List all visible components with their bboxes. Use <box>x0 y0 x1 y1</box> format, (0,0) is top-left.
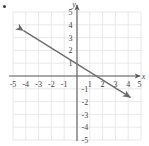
x-axis-label: x <box>141 72 146 81</box>
y-tick-label: -2 <box>82 98 89 107</box>
y-tick-label: -3 <box>82 111 89 120</box>
x-tick-labels: -5 -4 -3 -2 -1 1 2 3 4 5 <box>10 80 142 89</box>
x-tick-label: 4 <box>126 80 130 89</box>
y-tick-label: -4 <box>82 123 89 132</box>
axes <box>9 5 140 141</box>
x-tick-label: -2 <box>48 80 55 89</box>
y-tick-label: -5 <box>82 136 89 145</box>
y-tick-label: -1 <box>82 85 89 94</box>
x-tick-label: -5 <box>10 80 17 89</box>
x-tick-label: -1 <box>61 80 68 89</box>
x-tick-label: 3 <box>113 80 117 89</box>
y-tick-label: 4 <box>69 21 73 30</box>
graph-figure: -5 -4 -3 -2 -1 1 2 3 4 5 5 4 3 2 1 -1 -2… <box>0 0 149 146</box>
y-tick-label: 2 <box>69 46 73 55</box>
x-tick-label: -3 <box>35 80 42 89</box>
y-tick-labels: 5 4 3 2 1 -1 -2 -3 -4 -5 <box>69 8 89 145</box>
x-tick-label: 2 <box>101 80 105 89</box>
coordinate-plane: -5 -4 -3 -2 -1 1 2 3 4 5 5 4 3 2 1 -1 -2… <box>0 0 149 146</box>
x-tick-label: 1 <box>88 80 92 89</box>
y-axis-label: y <box>71 0 76 9</box>
x-tick-label: -4 <box>22 80 29 89</box>
y-tick-label: 3 <box>69 34 73 43</box>
y-tick-label: 1 <box>69 59 73 68</box>
y-tick-label: 5 <box>69 8 73 17</box>
